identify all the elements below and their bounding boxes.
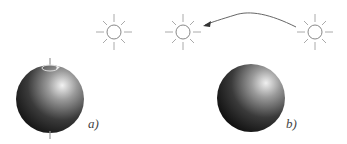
panel-a: [16, 14, 132, 139]
sphere-a: [16, 65, 84, 133]
sun-icon: [96, 14, 132, 50]
panel-b: [165, 13, 333, 132]
sphere-b: [217, 64, 285, 132]
arrowhead-icon: [203, 21, 211, 27]
sun-icon-start: [297, 14, 333, 50]
panel-label-b: b): [286, 116, 297, 132]
motion-arrow: [205, 13, 296, 27]
sun-icon-end: [165, 14, 201, 50]
panel-label-a: a): [88, 116, 99, 132]
